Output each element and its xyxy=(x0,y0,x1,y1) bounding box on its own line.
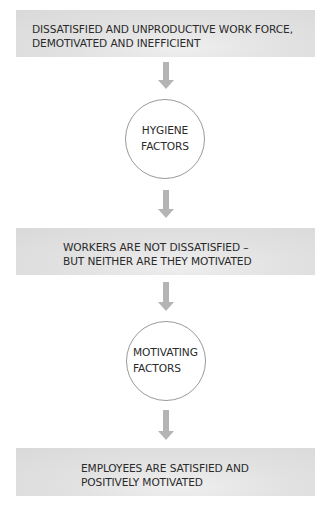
arrow-shaft xyxy=(163,410,169,432)
arrow-shaft xyxy=(163,190,169,210)
start-state-line-2: DEMOTIVATED AND INEFFICIENT xyxy=(32,36,315,50)
hygiene-factors-line-1: HYGIENE xyxy=(126,122,204,138)
start-state-line-1: DISSATISFIED AND UNPRODUCTIVE WORK FORCE… xyxy=(32,22,315,36)
end-state-box: EMPLOYEES ARE SATISFIED AND POSITIVELY M… xyxy=(16,448,315,496)
motivating-factors-line-2: FACTORS xyxy=(133,360,205,376)
arrow-down-icon xyxy=(158,282,174,311)
hygiene-factors-line-2: FACTORS xyxy=(126,138,204,154)
arrow-head xyxy=(158,302,174,311)
arrow-head xyxy=(158,431,174,440)
arrow-down-icon xyxy=(158,62,174,89)
arrow-head xyxy=(158,209,174,218)
intermediate-state-line-1: WORKERS ARE NOT DISSATISFIED – xyxy=(63,240,315,254)
start-state-box: DISSATISFIED AND UNPRODUCTIVE WORK FORCE… xyxy=(16,10,315,57)
arrow-shaft xyxy=(163,282,169,303)
arrow-head xyxy=(158,80,174,89)
intermediate-state-box: WORKERS ARE NOT DISSATISFIED – BUT NEITH… xyxy=(16,228,315,275)
end-state-line-2: POSITIVELY MOTIVATED xyxy=(81,475,315,489)
arrow-shaft xyxy=(163,62,169,81)
motivating-factors-line-1: MOTIVATING xyxy=(133,344,205,360)
motivating-factors-node: MOTIVATING FACTORS xyxy=(126,321,206,401)
end-state-line-1: EMPLOYEES ARE SATISFIED AND xyxy=(81,461,315,475)
arrow-down-icon xyxy=(158,190,174,218)
intermediate-state-line-2: BUT NEITHER ARE THEY MOTIVATED xyxy=(63,254,315,268)
hygiene-factors-node: HYGIENE FACTORS xyxy=(125,99,205,179)
arrow-down-icon xyxy=(158,410,174,440)
